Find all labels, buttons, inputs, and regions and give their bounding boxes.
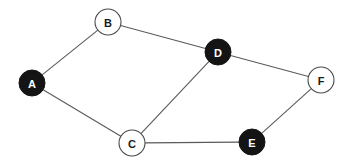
graph-node-e[interactable]: E (239, 129, 265, 155)
graph-edge-c-d (141, 61, 209, 133)
graph-edge-e-f (262, 89, 312, 134)
graph-node-c[interactable]: C (119, 130, 145, 156)
graph-node-b[interactable]: B (95, 9, 121, 35)
graph-node-a[interactable]: A (19, 70, 45, 96)
node-label-b: B (104, 17, 112, 29)
graph-node-f[interactable]: F (308, 67, 334, 93)
node-label-d: D (214, 47, 222, 59)
graph-edge-c-e (145, 142, 239, 143)
graph-svg: ABCDEF (0, 0, 346, 168)
graph-diagram-canvas: ABCDEF (0, 0, 346, 168)
graph-edge-a-b (42, 30, 98, 75)
node-label-f: F (318, 75, 325, 87)
node-label-a: A (28, 78, 36, 90)
edges-layer (42, 25, 311, 142)
graph-node-d[interactable]: D (205, 39, 231, 65)
nodes-layer: ABCDEF (19, 9, 334, 156)
graph-edge-d-f (231, 55, 309, 76)
graph-edge-a-c (43, 90, 121, 137)
node-label-c: C (128, 138, 136, 150)
node-label-e: E (248, 137, 255, 149)
graph-edge-b-d (121, 25, 206, 48)
